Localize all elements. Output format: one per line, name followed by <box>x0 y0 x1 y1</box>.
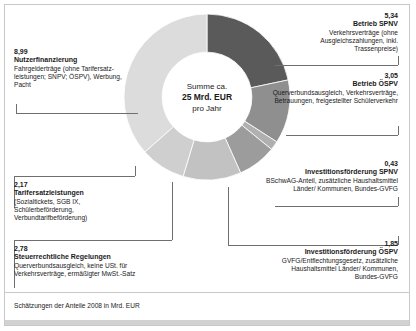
donut-chart <box>124 14 290 180</box>
callout-tarifersatzleistungen: 2,17 Tarifersatzleistungen (Sozialticket… <box>14 181 130 222</box>
bottom-accent-bar <box>5 320 409 325</box>
callout-betrieb-oespv-desc: Querverbundsausgleich, Verkehrsverträge,… <box>268 89 398 106</box>
callout-invest-oespv-desc: GVFG/Entflechtungsgesetz, zusätzliche Ha… <box>266 257 398 282</box>
callout-invest-spnv-title: Investitionsförderung SPNV <box>266 168 398 176</box>
callout-steuerrechtliche-desc: Querverbundsausgleich, keine USt. für Ve… <box>14 262 138 279</box>
footer-divider <box>5 292 409 293</box>
chart-page: Summe ca. 25 Mrd. EUR pro Jahr 8,99 Nutz… <box>0 0 416 331</box>
donut-slice-group <box>124 14 290 180</box>
callout-invest-spnv-value: 0,43 <box>266 160 398 168</box>
leader-tick-nutzerfinanzierung <box>16 104 17 113</box>
callout-tarifersatzleistungen-desc: (Sozialtickets, SGB IX, Schülerbeförderu… <box>14 198 130 223</box>
leader-tick-betrieb-spnv <box>398 56 399 65</box>
callout-invest-spnv: 0,43 Investitionsförderung SPNV BSchwAG-… <box>266 160 398 193</box>
callout-tarifersatzleistungen-value: 2,17 <box>14 181 130 189</box>
donut-slice <box>124 14 207 152</box>
chart-footnote: Schätzungen der Anteile 2008 in Mrd. EUR <box>14 302 140 309</box>
leader-line-betrieb-oespv <box>286 135 398 136</box>
callout-steuerrechtliche-value: 2,78 <box>14 245 138 253</box>
leader-line-nutzerfinanzierung <box>16 113 138 114</box>
callout-invest-spnv-desc: BSchwAG-Anteil, zusätzliche Haushaltsmit… <box>266 177 398 194</box>
callout-invest-oespv-title: Investitionsförderung ÖSPV <box>266 248 398 256</box>
leader-tick-tarifersatz-up <box>135 166 136 176</box>
callout-invest-oespv: 1,85 Investitionsförderung ÖSPV GVFG/Ent… <box>266 240 398 281</box>
leader-tick-steuerrechtliche-up <box>172 182 173 240</box>
leader-tick-invest-spnv <box>398 197 399 206</box>
callout-steuerrechtliche: 2,78 Steuerrechtliche Regelungen Querver… <box>14 245 138 278</box>
callout-nutzerfinanzierung-desc: Fahrgelderträge (ohne Tarifersatz-leistu… <box>14 65 126 90</box>
callout-nutzerfinanzierung-value: 8,99 <box>14 48 126 56</box>
callout-betrieb-oespv: 3,05 Betrieb ÖSPV Querverbundsausgleich,… <box>268 72 398 105</box>
callout-steuerrechtliche-title: Steuerrechtliche Regelungen <box>14 253 138 261</box>
leader-elbow-steuerrechtliche <box>14 240 172 241</box>
leader-line-invest-oespv <box>228 187 229 245</box>
leader-tick-betrieb-oespv <box>398 126 399 135</box>
callout-betrieb-oespv-title: Betrieb ÖSPV <box>268 80 398 88</box>
callout-betrieb-spnv-value: 5,34 <box>278 12 398 20</box>
callout-betrieb-spnv-desc: Verkehrsverträge (ohne Ausgleichszahlung… <box>278 29 398 54</box>
callout-betrieb-spnv-title: Betrieb SPNV <box>278 20 398 28</box>
leader-tick-invest-oespv <box>398 236 399 245</box>
leader-line-invest-spnv <box>275 206 398 207</box>
leader-elbow-tarifersatzleistungen <box>14 176 135 177</box>
callout-nutzerfinanzierung: 8,99 Nutzerfinanzierung Fahrgelderträge … <box>14 48 126 89</box>
leader-line-betrieb-spnv <box>275 65 398 66</box>
donut-chart-svg <box>124 14 290 180</box>
callout-betrieb-spnv: 5,34 Betrieb SPNV Verkehrsverträge (ohne… <box>278 12 398 53</box>
callout-tarifersatzleistungen-title: Tarifersatzleistungen <box>14 189 130 197</box>
callout-nutzerfinanzierung-title: Nutzerfinanzierung <box>14 56 126 64</box>
